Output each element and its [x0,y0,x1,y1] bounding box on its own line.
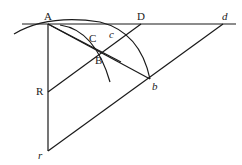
label-b: b [152,81,158,92]
label-c: c [109,29,114,40]
label-B: B [95,55,102,66]
line-r-d [48,24,223,151]
diagram-lines [0,0,242,165]
geometry-diagram: A D d C c B R b r [0,0,242,165]
label-D: D [137,11,145,22]
label-C: C [89,33,96,44]
label-r: r [38,150,42,161]
arc-large [14,20,150,79]
label-A: A [44,11,52,22]
label-d: d [222,11,228,22]
label-R: R [36,86,43,97]
